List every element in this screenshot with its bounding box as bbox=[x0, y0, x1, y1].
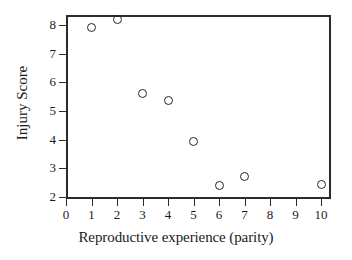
x-axis-tick bbox=[245, 199, 246, 206]
y-axis-tick-label: 8 bbox=[36, 18, 56, 31]
x-axis-tick-label: 4 bbox=[165, 208, 172, 221]
x-axis-tick-label: 6 bbox=[216, 208, 223, 221]
x-axis-tick bbox=[168, 199, 169, 206]
y-axis-tick bbox=[59, 140, 66, 141]
y-axis-tick-label: 3 bbox=[36, 161, 56, 174]
x-axis-tick-label: 5 bbox=[190, 208, 197, 221]
x-axis-tick bbox=[117, 199, 118, 206]
x-axis-tick-label: 3 bbox=[139, 208, 146, 221]
scatter-chart-figure: 2345678 Injury Score Reproductive experi… bbox=[0, 0, 352, 260]
x-axis-title: Reproductive experience (parity) bbox=[0, 228, 352, 246]
x-axis-tick bbox=[66, 199, 67, 206]
y-axis-tick bbox=[59, 82, 66, 83]
y-axis-tick bbox=[59, 197, 66, 198]
y-axis-tick-label: 6 bbox=[36, 75, 56, 88]
x-axis-tick-label: 2 bbox=[114, 208, 121, 221]
y-axis-tick-label: 7 bbox=[36, 47, 56, 60]
x-axis-tick-label: 1 bbox=[88, 208, 95, 221]
y-axis-tick-labels: 2345678 bbox=[32, 0, 56, 260]
x-axis-tick-label: 9 bbox=[292, 208, 299, 221]
y-axis-tick bbox=[59, 54, 66, 55]
y-axis-tick-label: 2 bbox=[36, 190, 56, 203]
y-axis-tick bbox=[59, 25, 66, 26]
x-axis-tick-label: 7 bbox=[241, 208, 248, 221]
plot-area-frame bbox=[66, 15, 331, 199]
x-axis-tick bbox=[321, 199, 322, 206]
x-axis-tick-label: 8 bbox=[267, 208, 274, 221]
y-axis-tick bbox=[59, 168, 66, 169]
x-axis-tick-label: 10 bbox=[315, 208, 328, 221]
y-axis-tick-label: 4 bbox=[36, 133, 56, 146]
x-axis-tick-label: 0 bbox=[63, 208, 70, 221]
x-axis-tick bbox=[143, 199, 144, 206]
x-axis-tick bbox=[296, 199, 297, 206]
y-axis-tick bbox=[59, 111, 66, 112]
x-axis-tick bbox=[270, 199, 271, 206]
y-axis-tick-label: 5 bbox=[36, 104, 56, 117]
y-axis-title: Injury Score bbox=[14, 33, 30, 173]
x-axis-tick bbox=[92, 199, 93, 206]
x-axis-tick bbox=[194, 199, 195, 206]
x-axis-tick bbox=[219, 199, 220, 206]
